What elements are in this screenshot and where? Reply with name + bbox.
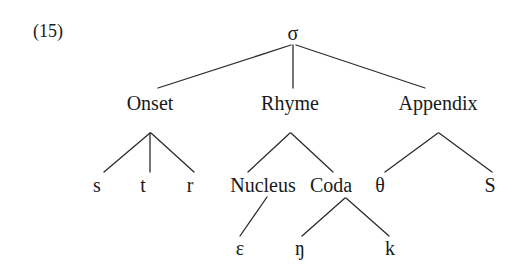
tree-node-rhyme: Rhyme: [261, 93, 319, 113]
tree-node-sigma: σ: [288, 23, 299, 43]
tree-edge-appendix-theta: [385, 133, 438, 172]
tree-edges: [0, 0, 519, 273]
tree-edge-onset-r: [151, 133, 194, 172]
tree-node-onset: Onset: [127, 93, 174, 113]
tree-edge-sigma-appendix: [296, 45, 425, 88]
tree-edge-appendix-S: [439, 133, 492, 172]
tree-edge-rhyme-nucleus: [248, 133, 290, 172]
tree-node-theta: θ: [375, 175, 385, 195]
tree-node-eng: ŋ: [295, 238, 305, 258]
tree-edge-rhyme-coda: [291, 133, 333, 172]
tree-node-appendix: Appendix: [399, 93, 478, 113]
tree-edge-onset-s: [104, 133, 150, 172]
tree-edge-coda-k: [346, 198, 389, 236]
tree-node-k: k: [385, 238, 395, 258]
example-number: (15): [33, 22, 63, 40]
tree-node-s: s: [93, 175, 101, 195]
tree-edge-coda-eng: [302, 198, 345, 236]
tree-node-nucleus: Nucleus: [230, 175, 296, 195]
syllable-tree-figure: (15) σOnsetRhymeAppendixstrNucleusCodaθS…: [0, 0, 519, 273]
tree-node-r: r: [187, 175, 194, 195]
tree-node-coda: Coda: [310, 175, 352, 195]
tree-edge-sigma-onset: [158, 45, 291, 88]
tree-node-S: S: [484, 175, 495, 195]
tree-edge-nucleus-epsilon: [240, 197, 267, 236]
tree-node-epsilon: ɛ: [236, 238, 244, 258]
tree-node-t: t: [140, 175, 146, 195]
